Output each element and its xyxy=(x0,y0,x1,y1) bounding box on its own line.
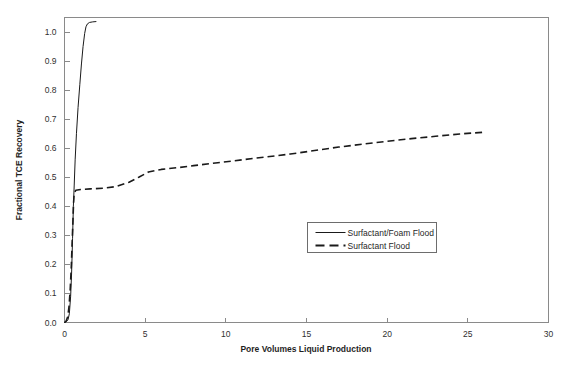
y-tick-label: 0.7 xyxy=(45,114,57,124)
y-tick-label: 0.3 xyxy=(45,230,57,240)
series-line-solid xyxy=(65,22,96,323)
y-tick-label: 0.0 xyxy=(45,318,57,328)
x-tick-label: 5 xyxy=(143,329,148,339)
x-axis-ticks: 051015202530 xyxy=(62,318,553,339)
y-tick-label: 0.1 xyxy=(45,288,57,298)
x-tick-label: 0 xyxy=(62,329,67,339)
y-tick-label: 0.4 xyxy=(45,201,57,211)
y-tick-label: 0.9 xyxy=(45,56,57,66)
y-axis-ticks: 0.00.10.20.30.40.50.60.70.80.91.0 xyxy=(45,27,70,327)
x-tick-label: 15 xyxy=(302,329,312,339)
x-tick-label: 20 xyxy=(382,329,392,339)
chart-figure: 0.00.10.20.30.40.50.60.70.80.91.0 051015… xyxy=(0,0,580,372)
line-chart: 0.00.10.20.30.40.50.60.70.80.91.0 051015… xyxy=(0,0,580,372)
legend-label: Surfactant Flood xyxy=(348,241,411,251)
x-tick-label: 10 xyxy=(221,329,231,339)
y-axis-title: Fractional TCE Recovery xyxy=(14,119,24,220)
plot-area-border xyxy=(65,18,549,323)
legend-label: Surfactant/Foam Flood xyxy=(348,228,435,238)
x-axis-title: Pore Volumes Liquid Production xyxy=(240,344,371,354)
data-series-group xyxy=(65,22,484,323)
chart-legend: Surfactant/Foam FloodSurfactant Flood xyxy=(308,223,437,253)
y-tick-label: 0.2 xyxy=(45,259,57,269)
plot-frame xyxy=(65,18,549,323)
y-tick-label: 1.0 xyxy=(45,27,57,37)
x-tick-label: 25 xyxy=(463,329,473,339)
y-tick-label: 0.8 xyxy=(45,85,57,95)
y-tick-label: 0.6 xyxy=(45,143,57,153)
y-tick-label: 0.5 xyxy=(45,172,57,182)
x-tick-label: 30 xyxy=(544,329,554,339)
